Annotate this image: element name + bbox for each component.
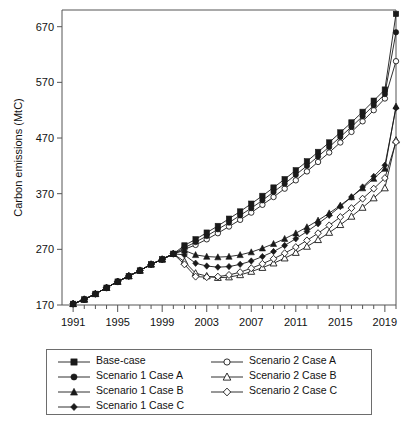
- legend-item: Scenario 2 Case B: [210, 367, 363, 382]
- legend-item: Scenario 2 Case A: [210, 352, 363, 367]
- chart-legend: Base-caseScenario 2 Case AScenario 1 Cas…: [46, 349, 372, 415]
- open-circle-icon: [210, 354, 244, 366]
- open-diamond-icon: [210, 384, 244, 396]
- legend-item: Scenario 2 Case C: [210, 382, 363, 397]
- legend-item: Base-case: [57, 352, 210, 367]
- y-tick-label: 170: [36, 299, 54, 311]
- axis-labels: 1702703704705706701991199519992003200720…: [12, 21, 397, 328]
- x-tick-label: 1991: [61, 316, 85, 328]
- plot-series-layer: [70, 11, 400, 307]
- legend-label: Scenario 2 Case C: [249, 384, 337, 396]
- y-tick-label: 470: [36, 132, 54, 144]
- filled-circle-icon: [57, 369, 91, 381]
- series-scenario-1-case-c: [70, 105, 399, 307]
- x-tick-label: 2019: [373, 316, 397, 328]
- chart-figure: 1702703704705706701991199519992003200720…: [0, 0, 418, 427]
- y-axis-title: Carbon emissions (MtC): [12, 98, 24, 217]
- series-base-case: [70, 11, 398, 306]
- y-tick-label: 570: [36, 76, 54, 88]
- filled-triangle-icon: [57, 384, 91, 396]
- x-tick-label: 1995: [105, 316, 129, 328]
- x-tick-label: 2007: [239, 316, 263, 328]
- legend-label: Scenario 2 Case B: [249, 369, 337, 381]
- x-tick-label: 2011: [284, 316, 308, 328]
- x-tick-label: 2015: [328, 316, 352, 328]
- y-tick-label: 670: [36, 21, 54, 33]
- x-tick-label: 1999: [150, 316, 174, 328]
- open-triangle-icon: [210, 369, 244, 381]
- legend-label: Base-case: [96, 354, 146, 366]
- x-tick-label: 2003: [194, 316, 218, 328]
- legend-item: Scenario 1 Case B: [57, 382, 210, 397]
- legend-label: Scenario 1 Case C: [96, 399, 184, 411]
- legend-item: Scenario 1 Case C: [57, 397, 210, 412]
- legend-label: Scenario 2 Case A: [249, 354, 336, 366]
- filled-square-icon: [57, 354, 91, 366]
- y-tick-label: 370: [36, 188, 54, 200]
- legend-entries: Base-caseScenario 2 Case AScenario 1 Cas…: [47, 350, 371, 414]
- filled-diamond-icon: [57, 399, 91, 411]
- legend-label: Scenario 1 Case A: [96, 369, 183, 381]
- y-tick-label: 270: [36, 243, 54, 255]
- legend-item: Scenario 1 Case A: [57, 367, 210, 382]
- series-scenario-2-case-a: [70, 59, 398, 307]
- legend-label: Scenario 1 Case B: [96, 384, 184, 396]
